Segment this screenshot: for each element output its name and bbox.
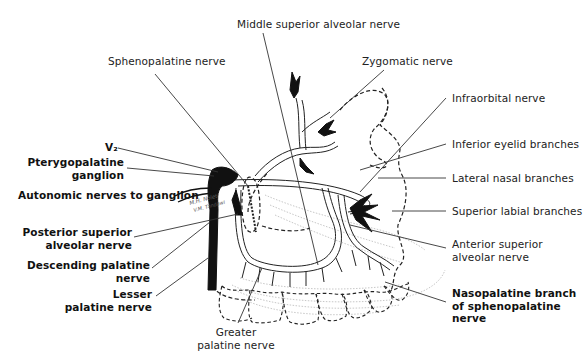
label-inferior-eyelid-branches: Inferior eyelid branches	[452, 138, 579, 151]
label-posterior-superior-alveolar-nerve: Posterior superior alveolar nerve	[20, 226, 132, 251]
label-superior-labial-branches: Superior labial branches	[452, 205, 582, 218]
nerve-trunks	[232, 98, 394, 272]
label-greater-palatine-nerve: Greater palatine nerve	[176, 326, 296, 351]
teeth	[219, 282, 409, 324]
ribbed-structure	[248, 186, 256, 232]
leader-lines	[118, 33, 446, 323]
label-lesser-palatine-nerve: Lesser palatine nerve	[20, 288, 152, 313]
label-anterior-superior-alveolar-nerve: Anterior superior alveolar nerve	[452, 238, 543, 263]
label-zygomatic-nerve: Zygomatic nerve	[362, 55, 453, 68]
palate-shading	[232, 195, 445, 315]
label-autonomic-nerves-to-ganglion: Autonomic nerves to ganglion	[18, 189, 199, 202]
label-v2: V₂	[105, 141, 118, 154]
label-lateral-nasal-branches: Lateral nasal branches	[452, 172, 574, 185]
label-sphenopalatine-nerve: Sphenopalatine nerve	[108, 55, 226, 68]
label-pterygopalatine-ganglion: Pterygopalatine ganglion	[20, 156, 124, 181]
label-middle-superior-alveolar-nerve: Middle superior alveolar nerve	[237, 18, 400, 31]
label-descending-palatine-nerve: Descending palatine nerve	[20, 259, 150, 284]
nerve-diagram: M.H. Nolet V.M. Tandawi	[0, 0, 584, 361]
label-infraorbital-nerve: Infraorbital nerve	[452, 92, 545, 105]
label-nasopalatine-branch: Nasopalatine branch of sphenopalatine ne…	[452, 287, 576, 325]
